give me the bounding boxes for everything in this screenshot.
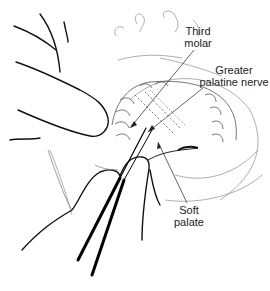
face-outline xyxy=(50,11,262,215)
label-third-molar: Third molar xyxy=(176,25,220,49)
upper-teeth-arch xyxy=(112,81,236,160)
retracting-hand xyxy=(10,14,160,250)
dental-injection-illustration xyxy=(0,0,270,291)
label-third-molar-line2: molar xyxy=(176,37,220,49)
figure-canvas: Third molar Greater palatine nerve Soft … xyxy=(0,0,270,291)
label-third-molar-line1: Third xyxy=(176,25,220,37)
label-soft-palate: Soft palate xyxy=(170,204,208,228)
label-soft-palate-line2: palate xyxy=(170,216,208,228)
label-greater-palatine-nerve: Greater palatine nerve xyxy=(198,64,270,88)
syringe-needle xyxy=(78,128,152,275)
label-greater-palatine-nerve-line2: palatine nerve xyxy=(198,76,270,88)
label-soft-palate-line1: Soft xyxy=(170,204,208,216)
label-greater-palatine-nerve-line1: Greater xyxy=(198,64,270,76)
